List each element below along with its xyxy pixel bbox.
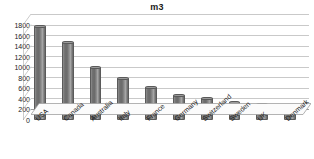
bar-group[interactable] (34, 26, 46, 120)
bar-cap (201, 97, 213, 100)
y-axis: 180016001400120010008006004002000 (0, 0, 30, 159)
chart-container: m3 180016001400120010008006004002000 USA… (0, 0, 314, 159)
bar-cap (62, 41, 74, 44)
bar-cap (90, 66, 102, 69)
y-axis-tick-label: 200 (0, 106, 30, 113)
bar-cap (256, 103, 268, 106)
y-axis-tick-label: 1600 (0, 32, 30, 39)
y-axis-tick-label: 400 (0, 95, 30, 102)
y-axis-tick-label: 800 (0, 74, 30, 81)
bar-cap (117, 77, 129, 80)
y-axis-tick-label: 1400 (0, 43, 30, 50)
y-axis-tick-label: 600 (0, 85, 30, 92)
bar-usa[interactable] (34, 26, 46, 120)
bar-cap (173, 94, 185, 97)
y-axis-tick-label: 0 (0, 117, 30, 124)
chart-title: m3 (0, 2, 314, 12)
y-axis-tick-label: 1000 (0, 64, 30, 71)
bar-cap (145, 86, 157, 89)
y-axis-tick-label: 1200 (0, 53, 30, 60)
bar-cap (34, 25, 46, 28)
y-axis-tick-label: 1800 (0, 22, 30, 29)
